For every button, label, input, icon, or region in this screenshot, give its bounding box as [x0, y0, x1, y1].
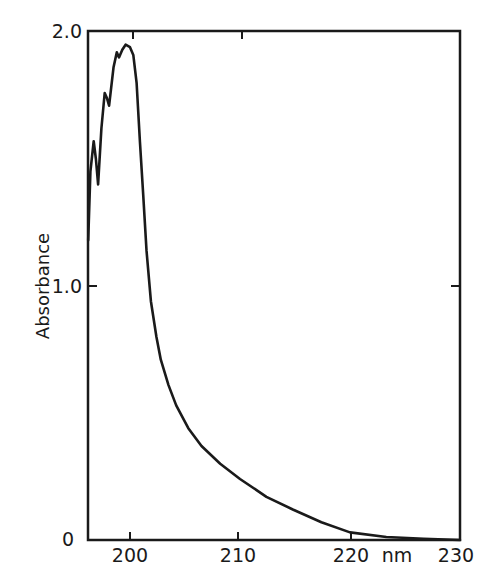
spectrum-line — [88, 45, 460, 540]
x-tick-label-230: 230 — [438, 544, 474, 566]
x-tick-label-220: 220 — [333, 544, 369, 566]
y-tick-label-0: 0 — [62, 528, 74, 550]
y-tick-label-2: 2.0 — [52, 20, 82, 42]
x-axis-ticks — [130, 31, 351, 540]
y-axis-title: Absorbance — [32, 233, 53, 339]
x-tick-label-200: 200 — [112, 544, 148, 566]
x-unit-label: nm — [382, 544, 413, 566]
x-tick-label-210: 210 — [220, 544, 256, 566]
plot-frame — [88, 31, 460, 540]
absorbance-spectrum-chart: 2.0 1.0 0 200 210 220 nm 230 Absorbance — [0, 0, 493, 577]
y-tick-label-1: 1.0 — [52, 275, 82, 297]
